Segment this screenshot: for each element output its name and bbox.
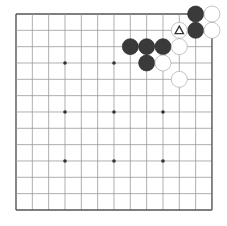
star-point xyxy=(63,159,67,163)
star-point xyxy=(112,61,116,65)
black-stone[interactable] xyxy=(188,6,204,22)
black-stone[interactable] xyxy=(139,55,155,71)
star-point xyxy=(63,110,67,114)
white-stone[interactable] xyxy=(171,71,187,87)
star-point xyxy=(112,110,116,114)
white-stone[interactable] xyxy=(171,39,187,55)
white-stone[interactable] xyxy=(204,6,220,22)
star-point xyxy=(112,159,116,163)
black-stone[interactable] xyxy=(139,39,155,55)
white-stone[interactable] xyxy=(155,55,171,71)
star-point xyxy=(161,110,165,114)
star-point xyxy=(63,61,67,65)
black-stone[interactable] xyxy=(188,22,204,38)
white-stone[interactable] xyxy=(204,22,220,38)
black-stone[interactable] xyxy=(122,39,138,55)
go-board[interactable] xyxy=(0,0,227,226)
white-stone[interactable] xyxy=(171,22,187,38)
star-point xyxy=(161,159,165,163)
black-stone[interactable] xyxy=(155,39,171,55)
